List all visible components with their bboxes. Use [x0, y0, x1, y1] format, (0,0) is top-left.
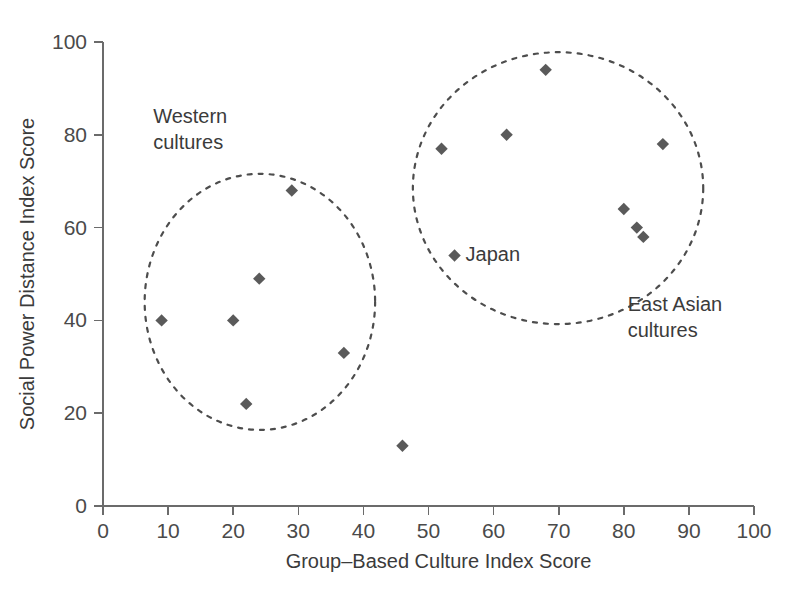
x-tick-label: 50: [417, 519, 440, 542]
x-tick-label: 10: [156, 519, 179, 542]
cluster-ellipses: [145, 52, 704, 430]
y-axis-title: Social Power Distance Index Score: [16, 118, 38, 430]
data-point-marker: [448, 249, 460, 261]
annotation-label-east-asian-cultures: cultures: [628, 319, 698, 341]
x-tick-label: 70: [547, 519, 570, 542]
y-tick-label: 100: [52, 30, 87, 53]
annotation-label-western-cultures: Western: [153, 105, 227, 127]
y-tick-label: 60: [64, 216, 87, 239]
x-tick-label: 100: [736, 519, 771, 542]
data-point-marker: [435, 143, 447, 155]
y-tick-label: 80: [64, 123, 87, 146]
data-point-marker: [657, 138, 669, 150]
data-point-marker: [338, 347, 350, 359]
cluster-ellipse-east-asian-cultures: [413, 52, 703, 324]
annotation-label-western-cultures: cultures: [153, 131, 223, 153]
data-point-marker: [618, 203, 630, 215]
plot-canvas: 020406080100 0102030405060708090100 West…: [0, 0, 801, 597]
y-tick-label: 0: [75, 494, 87, 517]
data-point-marker: [539, 64, 551, 76]
x-tick-label: 90: [677, 519, 700, 542]
data-point-marker: [631, 221, 643, 233]
data-point-marker: [253, 272, 265, 284]
data-point-marker: [637, 231, 649, 243]
y-tick-label: 20: [64, 401, 87, 424]
x-tick-label: 20: [222, 519, 245, 542]
data-point-marker: [227, 314, 239, 326]
data-point-marker: [155, 314, 167, 326]
scatter-plot-figure: 020406080100 0102030405060708090100 West…: [0, 0, 801, 597]
data-point-marker: [396, 439, 408, 451]
x-tick-label: 40: [352, 519, 375, 542]
data-point-label-japan: Japan: [466, 243, 521, 265]
x-tick-label: 60: [482, 519, 505, 542]
data-point-markers: [155, 64, 669, 452]
cluster-ellipse-western-cultures: [145, 174, 375, 430]
data-point-marker: [240, 398, 252, 410]
y-axis-ticks: 020406080100: [52, 30, 103, 517]
data-point-marker: [500, 129, 512, 141]
y-tick-label: 40: [64, 308, 87, 331]
annotation-label-east-asian-cultures: East Asian: [628, 293, 723, 315]
x-axis-title: Group–Based Culture Index Score: [286, 550, 592, 572]
x-axis-ticks: 0102030405060708090100: [97, 506, 771, 542]
data-point-labels: Japan: [466, 243, 521, 265]
x-tick-label: 0: [97, 519, 109, 542]
x-tick-label: 80: [612, 519, 635, 542]
data-point-marker: [286, 184, 298, 196]
x-tick-label: 30: [287, 519, 310, 542]
